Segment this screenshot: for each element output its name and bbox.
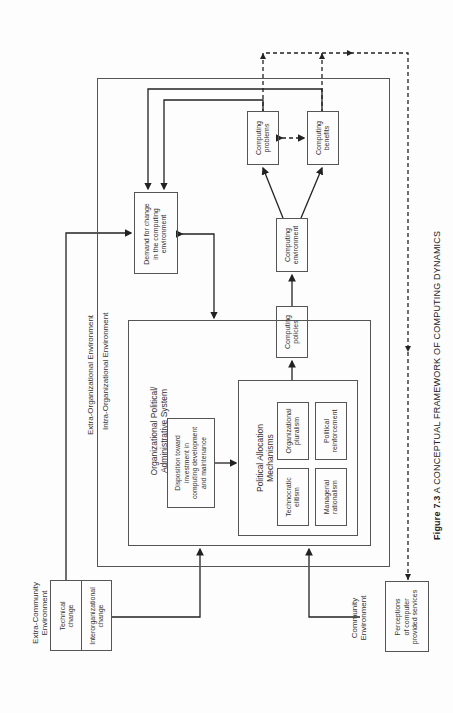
political-allocation-label: Political Allocation Mechanisms (250, 403, 280, 513)
extra-organizational-label: Extra-Organizational Environment (86, 315, 95, 435)
organizational-pluralism-label: Organizational pluralism (277, 402, 309, 460)
intra-organizational-label: Intra-Organizational Environment (101, 313, 110, 430)
technical-change-label: Technical change (52, 581, 82, 652)
computing-environment-label: Computing environment (276, 218, 308, 272)
computing-policies-label: Computing policies (276, 306, 308, 358)
computing-problems-label: Computing problems (247, 111, 279, 165)
managerial-rationalism-label: Managerial rationalism (315, 468, 347, 526)
figure-title: A CONCEPTUAL FRAMEWORK OF COMPUTING DYNA… (432, 231, 442, 493)
computing-benefits-label: Computing benefits (307, 111, 339, 165)
technocratic-elitism-label: Technocratic elitism (277, 468, 309, 526)
community-label: Community Environment (347, 593, 371, 643)
demand-for-change-label: Demand for change in the computing envir… (134, 193, 178, 275)
disposition-label: Disposition toward investment in computi… (167, 418, 215, 508)
political-reinforcement-label: Political reinforcement (315, 402, 347, 460)
figure-number: Figure 7.3 (432, 495, 442, 540)
figure-caption: Figure 7.3 A CONCEPTUAL FRAMEWORK OF COM… (432, 231, 442, 540)
perceptions-label: Perceptions of computer provided service… (385, 582, 429, 653)
interorganizational-change-label: Interorganizational change (82, 581, 112, 652)
